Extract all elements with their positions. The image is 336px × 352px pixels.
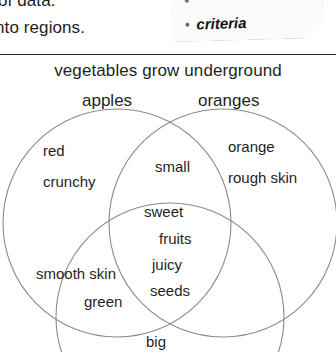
venn-title: vegetables grow underground [54, 61, 282, 81]
venn-term-crunchy: crunchy [43, 173, 96, 190]
venn-term-smooth-skin: smooth skin [36, 265, 116, 282]
venn-term-orange: orange [228, 138, 275, 155]
note-card-item-0 [185, 0, 196, 9]
venn-term-red: red [43, 142, 65, 159]
venn-circle-oranges [109, 109, 336, 337]
venn-term-small: small [155, 158, 190, 175]
venn-term-green: green [84, 293, 122, 310]
venn-term-big: big [146, 333, 166, 350]
clipped-text-line-2: nto regions. [0, 18, 85, 38]
venn-term-sweet: sweet [144, 203, 183, 220]
venn-term-rough-skin: rough skin [228, 169, 297, 186]
bullet-icon [185, 0, 189, 3]
venn-term-fruits: fruits [159, 230, 192, 247]
clipped-text-line-1: of data. [0, 0, 56, 11]
venn-term-seeds: seeds [150, 282, 190, 299]
venn-label-oranges: oranges [198, 91, 259, 111]
bullet-icon [185, 23, 189, 27]
note-card-item-1-label: criteria [196, 14, 247, 32]
venn-label-apples: apples [82, 91, 132, 111]
criteria-note-card: criteria [170, 0, 324, 42]
note-card-item-1: criteria [185, 14, 246, 33]
venn-diagram: vegetables grow underground apples orang… [0, 55, 336, 352]
venn-term-juicy: juicy [152, 256, 182, 273]
